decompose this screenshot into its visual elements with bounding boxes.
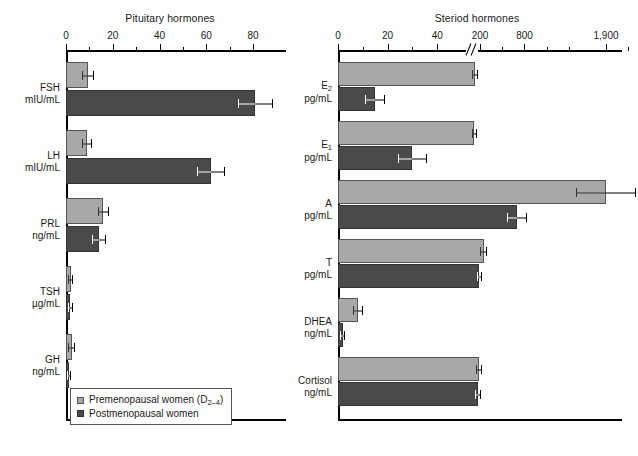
category-name: Cortisol <box>298 375 332 386</box>
error-bar-fsh-postmenopausal <box>238 99 273 108</box>
error-bar-dhea-postmenopausal <box>340 331 345 340</box>
tick-label: 40 <box>154 30 165 41</box>
category-label: Tpg/mL <box>270 257 332 280</box>
category-subscript: 1 <box>328 143 332 152</box>
error-bar-cortisol-postmenopausal <box>475 390 481 399</box>
error-bar-lh-postmenopausal <box>197 167 225 176</box>
tick-major <box>113 44 114 51</box>
tick-label: 0 <box>335 30 341 41</box>
category-name: E <box>321 80 328 91</box>
legend-label-premenopausal: Premenopausal women (D2–4) <box>89 393 223 407</box>
error-bar-e1-postmenopausal <box>398 154 428 163</box>
bar-a-premenopausal <box>338 180 606 204</box>
tick-minor <box>89 47 90 51</box>
category-unit: ng/mL <box>270 328 332 340</box>
error-bar-gh-premenopausal <box>68 343 75 352</box>
category-label: E2pg/mL <box>270 80 332 104</box>
error-bar-dhea-premenopausal <box>353 306 363 315</box>
category-name: PRL <box>41 218 60 229</box>
bar-a-postmenopausal <box>338 205 517 229</box>
bar-fsh-postmenopausal <box>66 90 255 116</box>
category-subscript: 2 <box>328 84 332 93</box>
category-unit: pg/mL <box>270 93 332 105</box>
tick-label: 40 <box>432 30 443 41</box>
tick-minor <box>183 47 184 51</box>
bar-t-premenopausal <box>338 239 484 263</box>
bar-lh-postmenopausal <box>66 158 211 184</box>
category-name: DHEA <box>304 316 332 327</box>
error-bar-prl-premenopausal <box>98 207 110 216</box>
tick-minor <box>136 47 137 51</box>
category-name: TSH <box>40 286 60 297</box>
error-bar-tsh-postmenopausal <box>68 303 73 312</box>
category-unit: µg/mL <box>8 298 60 310</box>
error-bar-e2-postmenopausal <box>365 95 385 104</box>
tick-minor <box>412 47 413 51</box>
steroid-bottom-axis <box>338 419 622 421</box>
tick-label: 0 <box>63 30 69 41</box>
category-unit: pg/mL <box>270 269 332 281</box>
tick-major <box>480 44 481 51</box>
error-bar-lh-premenopausal <box>82 139 91 148</box>
chart-legend: Premenopausal women (D2–4) Postmenopausa… <box>70 388 232 425</box>
tick-label: 20 <box>107 30 118 41</box>
tick-minor <box>628 47 629 51</box>
legend-row-postmenopausal: Postmenopausal women <box>77 407 223 420</box>
tick-minor <box>547 47 548 51</box>
bar-e1-premenopausal <box>338 121 474 145</box>
error-bar-a-postmenopausal <box>507 213 526 222</box>
category-unit: pg/mL <box>270 210 332 222</box>
category-name: LH <box>47 150 60 161</box>
tick-minor <box>502 47 503 51</box>
pituitary-panel-title: Pituitary hormones <box>70 12 270 24</box>
legend-swatch-premenopausal <box>77 397 84 404</box>
steroid-panel-title: Steriod hormones <box>362 12 592 24</box>
error-bar-a-premenopausal <box>576 188 635 197</box>
legend-label-postmenopausal: Postmenopausal women <box>89 407 199 420</box>
tick-major <box>338 44 339 51</box>
category-name: FSH <box>40 82 60 93</box>
tick-label: 200 <box>472 30 489 41</box>
tick-label: 1,900 <box>593 30 618 41</box>
category-label: Cortisolng/mL <box>270 375 332 398</box>
tick-label: 80 <box>247 30 258 41</box>
error-bar-gh-postmenopausal <box>67 371 71 380</box>
category-label: PRLng/mL <box>8 218 60 241</box>
tick-label: 60 <box>201 30 212 41</box>
tick-major <box>524 44 525 51</box>
category-label: LHmIU/mL <box>8 150 60 173</box>
bar-t-postmenopausal <box>338 264 479 288</box>
tick-major <box>160 44 161 51</box>
legend-swatch-postmenopausal <box>77 410 84 417</box>
category-unit: ng/mL <box>8 230 60 242</box>
error-bar-t-postmenopausal <box>477 272 482 281</box>
tick-major <box>206 44 207 51</box>
error-bar-tsh-premenopausal <box>68 275 74 284</box>
category-label: Apg/mL <box>270 198 332 221</box>
tick-minor <box>230 47 231 51</box>
tick-major <box>66 44 67 51</box>
error-bar-cortisol-premenopausal <box>476 365 482 374</box>
legend-row-premenopausal: Premenopausal women (D2–4) <box>77 393 223 407</box>
bar-cortisol-premenopausal <box>338 357 479 381</box>
tick-minor <box>569 47 570 51</box>
category-name: E <box>321 139 328 150</box>
bar-e2-premenopausal <box>338 62 475 86</box>
category-unit: pg/mL <box>270 152 332 164</box>
category-label: TSHµg/mL <box>8 286 60 309</box>
tick-minor <box>363 47 364 51</box>
tick-label: 20 <box>382 30 393 41</box>
tick-major <box>606 44 607 51</box>
error-bar-t-premenopausal <box>480 247 487 256</box>
category-unit: mIU/mL <box>8 162 60 174</box>
tick-label: 800 <box>516 30 533 41</box>
category-label: GHng/mL <box>8 354 60 377</box>
hormone-comparison-figure: Pituitary hormones 020406080 FSHmIU/mLLH… <box>0 0 638 456</box>
error-bar-e1-premenopausal <box>472 129 477 138</box>
steroid-hormones-panel: Steriod hormones 020402008001,900 E2pg/m… <box>312 0 638 456</box>
category-unit: ng/mL <box>8 366 60 378</box>
category-label: DHEAng/mL <box>270 316 332 339</box>
category-name: T <box>326 257 332 268</box>
error-bar-e2-premenopausal <box>472 70 478 79</box>
pituitary-hormones-panel: Pituitary hormones 020406080 FSHmIU/mLLH… <box>0 0 312 456</box>
